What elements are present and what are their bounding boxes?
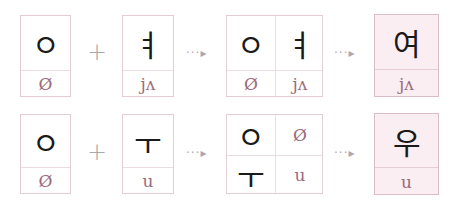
vowel-card-row1: ㅕ jʌ	[122, 15, 174, 97]
consonant-card-row1: ㅇ Ø	[20, 15, 71, 97]
vowel-char: ㅕ	[123, 16, 173, 70]
consonant-char: ㅇ	[21, 115, 70, 167]
result-card-row1: 여 jʌ	[374, 14, 439, 97]
combo-bottom-right: jʌ	[276, 71, 324, 97]
consonant-card-row2: ㅇ Ø	[20, 114, 71, 194]
arrow-icon: ···▸	[186, 146, 207, 160]
result-char: 여	[375, 15, 438, 69]
combo-top-left: ㅇ	[227, 16, 275, 70]
combo-top-right: ㅕ	[276, 16, 324, 70]
arrow-icon: ···▸	[186, 46, 207, 60]
vowel-card-row2: ㅜ u	[122, 114, 174, 194]
consonant-char: ㅇ	[21, 16, 70, 70]
plus-sign: +	[87, 38, 107, 66]
combo-bottom-left: ㅜ	[227, 156, 275, 194]
result-ipa: jʌ	[375, 70, 438, 97]
result-ipa: u	[375, 168, 438, 195]
consonant-ipa: Ø	[21, 168, 70, 194]
combination-card-row1: ㅇ ㅕ Ø jʌ	[226, 15, 323, 97]
plus-sign: +	[87, 138, 107, 166]
arrow-icon: ···▸	[334, 146, 355, 160]
combination-card-row2: ㅇ Ø ㅜ u	[226, 114, 323, 194]
combo-top-right: Ø	[276, 115, 324, 155]
result-char: 우	[375, 114, 438, 167]
combo-bottom-right: u	[276, 156, 324, 194]
combo-top-left: ㅇ	[227, 115, 275, 155]
arrow-icon: ···▸	[334, 46, 355, 60]
vowel-ipa: u	[123, 168, 173, 194]
vowel-char: ㅜ	[123, 115, 173, 167]
vowel-ipa: jʌ	[123, 71, 173, 97]
consonant-ipa: Ø	[21, 71, 70, 97]
combo-bottom-left: Ø	[227, 71, 275, 97]
result-card-row2: 우 u	[374, 113, 439, 195]
